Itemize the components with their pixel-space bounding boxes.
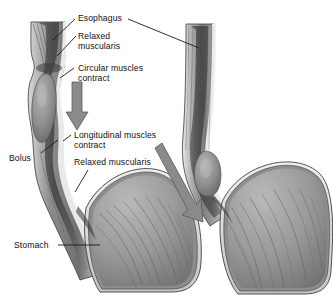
label-relaxed-muscularis-low: Relaxed muscularis xyxy=(74,157,151,167)
label-longitudinal-muscles-line1: Longitudinal muscles xyxy=(74,130,156,140)
label-circular-muscles-line1: Circular muscles xyxy=(78,63,143,73)
left-constriction-shadow xyxy=(36,63,62,73)
label-circular-muscles-line2: contract xyxy=(78,73,109,83)
label-relaxed-muscularis-top-line1: Relaxed xyxy=(78,31,110,41)
label-bolus: Bolus xyxy=(9,153,31,163)
right-stomach xyxy=(211,162,333,294)
label-longitudinal-muscles-line2: contract xyxy=(74,140,105,150)
label-relaxed-muscularis-top-line2: muscularis xyxy=(78,41,120,51)
left-bolus-highlight xyxy=(37,83,47,107)
label-stomach: Stomach xyxy=(14,240,49,250)
illustration-canvas: Esophagus Relaxed muscularis Circular mu… xyxy=(0,0,333,300)
label-esophagus: Esophagus xyxy=(78,13,122,23)
peristalsis-diagram-svg xyxy=(0,0,333,300)
right-bolus-highlight xyxy=(200,158,212,178)
leader-relaxed-muscularis-low xyxy=(75,170,88,192)
circular-contraction-arrow xyxy=(66,82,88,130)
